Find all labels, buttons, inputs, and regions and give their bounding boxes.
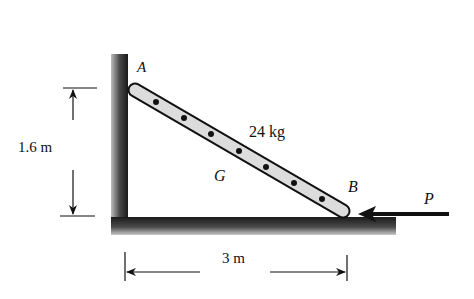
height-dimension xyxy=(60,88,97,216)
mass-label: 24 kg xyxy=(249,123,285,141)
center-g-label: G xyxy=(214,167,226,184)
force-p-label: P xyxy=(423,190,434,207)
point-a-label: A xyxy=(136,59,147,75)
ladder-diagram: 1.6 m 3 m A 24 kg G B P xyxy=(0,0,474,299)
width-dim-label: 3 m xyxy=(222,250,245,266)
point-b-label: B xyxy=(348,178,358,195)
floor xyxy=(111,217,396,235)
wall xyxy=(111,54,128,234)
height-dim-label: 1.6 m xyxy=(18,139,53,155)
force-arrow xyxy=(358,206,449,222)
ladder xyxy=(135,90,343,211)
